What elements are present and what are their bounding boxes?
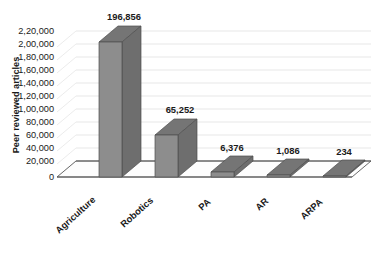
bar-front-face [211, 172, 234, 177]
data-label-agriculture: 196,856 [107, 11, 141, 22]
bar-front-face [155, 135, 178, 177]
y-tick-label: 20,000 [26, 156, 54, 166]
y-tick-label: 1,60,000 [18, 65, 54, 75]
bar-agriculture [99, 26, 141, 177]
bar-front-face [267, 175, 290, 177]
y-tick-label: 40,000 [26, 143, 54, 153]
data-label-ar: 1,086 [276, 145, 299, 156]
y-tick-label: 2,00,000 [18, 39, 54, 49]
bar-front-face [99, 42, 122, 177]
bar-chart-3d: Peer reviewed articles 2,20,000 2,00,000… [0, 0, 389, 255]
y-tick-label: 1,20,000 [18, 91, 54, 101]
y-tick-label: 0 [49, 172, 54, 182]
bar-front-face [323, 176, 346, 177]
y-tick-label: 1,80,000 [18, 52, 54, 62]
y-tick-label: 2,20,000 [18, 26, 54, 36]
y-tick-label: 1,00,000 [18, 104, 54, 114]
data-label-robotics: 65,252 [166, 104, 195, 115]
data-label-arpa: 234 [336, 146, 352, 157]
y-tick-label: 1,40,000 [18, 78, 54, 88]
y-tick-label: 60,000 [26, 130, 54, 140]
bar-side-face [122, 26, 141, 177]
y-tick-label: 80,000 [26, 117, 54, 127]
data-label-pa: 6,376 [220, 142, 243, 153]
